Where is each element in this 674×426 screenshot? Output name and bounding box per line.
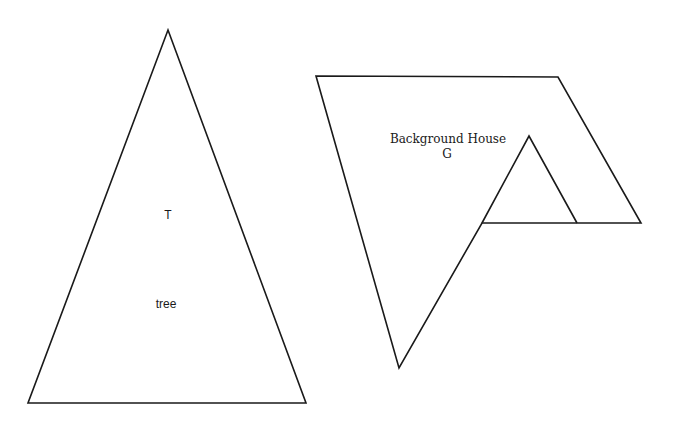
shapes-layer (0, 0, 674, 426)
background-house-polygon (316, 76, 641, 368)
background-house-name-label: Background House (390, 133, 506, 145)
background-house-inner-roof (482, 136, 577, 223)
diagram-canvas: T tree Background House G (0, 0, 674, 426)
tree-symbol-label: T (164, 209, 171, 221)
background-house-symbol-label: G (442, 148, 452, 160)
tree-name-label: tree (156, 298, 177, 310)
